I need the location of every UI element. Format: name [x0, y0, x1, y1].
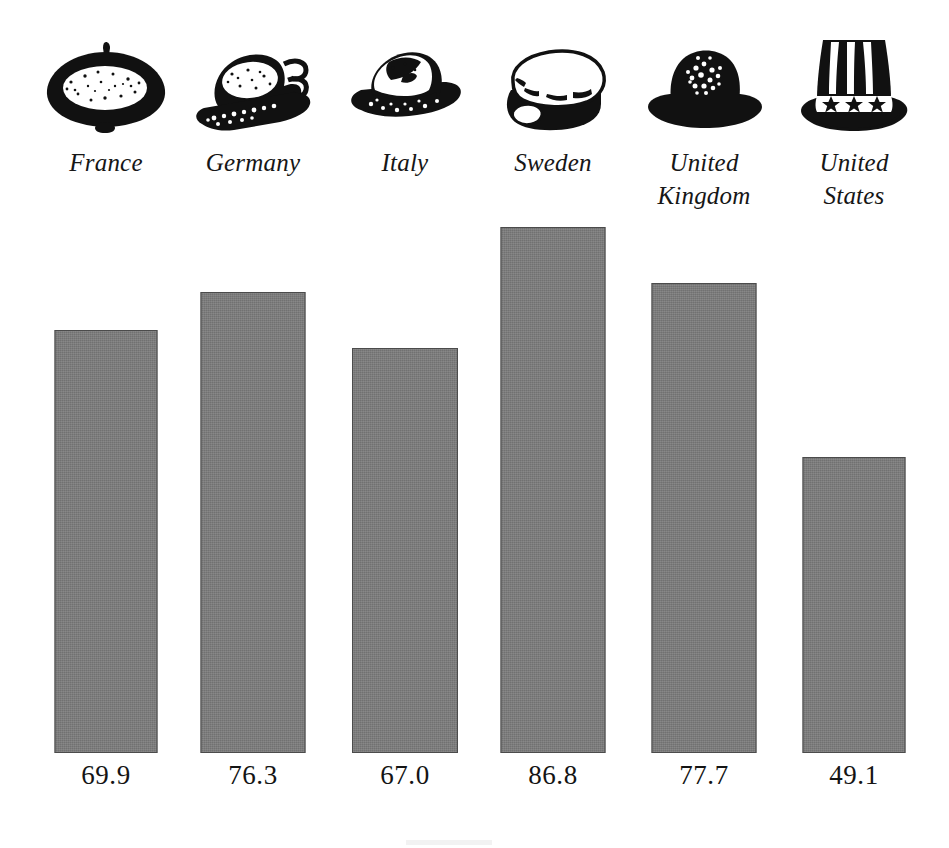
- bar-germany: [201, 292, 306, 753]
- bar-area-united-states: [784, 0, 924, 848]
- scan-artifact: [406, 840, 492, 845]
- bar-sweden: [501, 227, 606, 753]
- chart-column-france: France 69.9: [36, 0, 176, 848]
- bar-area-italy: [335, 0, 475, 848]
- chart-column-italy: Italy 67.0: [335, 0, 475, 848]
- chart-column-united-states: United States 49.1: [784, 0, 924, 848]
- bar-area-united-kingdom: [634, 0, 774, 848]
- value-label-germany: 76.3: [173, 760, 333, 791]
- bar-united-states: [803, 457, 906, 753]
- bar-area-sweden: [483, 0, 623, 848]
- bar-area-germany: [183, 0, 323, 848]
- value-label-france: 69.9: [26, 760, 186, 791]
- value-label-united-states: 49.1: [774, 760, 934, 791]
- chart-column-sweden: Sweden 86.8: [483, 0, 623, 848]
- bar-italy: [352, 348, 458, 753]
- chart-column-united-kingdom: United Kingdom 77.7: [634, 0, 774, 848]
- bar-chart-figure: France 69.9: [0, 0, 949, 848]
- chart-column-germany: Germany 76.3: [183, 0, 323, 848]
- bar-area-france: [36, 0, 176, 848]
- bar-france: [55, 330, 158, 753]
- value-label-united-kingdom: 77.7: [624, 760, 784, 791]
- value-label-italy: 67.0: [325, 760, 485, 791]
- bar-united-kingdom: [652, 283, 757, 753]
- value-label-sweden: 86.8: [473, 760, 633, 791]
- chart-columns: France 69.9: [0, 0, 949, 848]
